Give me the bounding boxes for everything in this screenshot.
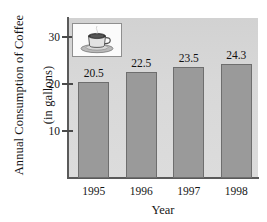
bar bbox=[78, 82, 109, 178]
bar bbox=[173, 67, 204, 178]
y-axis-tick-label: 10 bbox=[36, 125, 60, 137]
bar bbox=[126, 72, 157, 178]
y-axis-line bbox=[67, 17, 69, 179]
bar-value-label: 24.3 bbox=[226, 49, 246, 61]
bar bbox=[221, 64, 252, 178]
bar-value-label: 20.5 bbox=[84, 67, 104, 79]
x-axis-tick-label: 1995 bbox=[82, 185, 105, 197]
y-axis-title-line-1: Annual Consumption of Coffee bbox=[12, 15, 27, 176]
y-axis-tick bbox=[62, 83, 73, 85]
y-axis-tick bbox=[62, 130, 73, 132]
coffee-cup-illustration bbox=[72, 23, 122, 57]
coffee-cup-icon bbox=[73, 24, 121, 56]
x-axis-tick-label: 1997 bbox=[177, 185, 200, 197]
y-axis-tick-label: 20 bbox=[36, 78, 60, 90]
y-axis-tick-label: 30 bbox=[36, 31, 60, 43]
y-axis-title-line-2: (in gallons) bbox=[41, 66, 56, 124]
y-axis-title: Annual Consumption of Coffee (in gallons… bbox=[0, 0, 62, 190]
bar-value-label: 22.5 bbox=[131, 57, 151, 69]
x-axis-tick-label: 1998 bbox=[225, 185, 248, 197]
bar-chart-figure: Annual Consumption of Coffee (in gallons… bbox=[0, 0, 267, 222]
x-axis-title: Year bbox=[68, 203, 258, 218]
bar-value-label: 23.5 bbox=[179, 52, 199, 64]
x-axis-tick-label: 1996 bbox=[130, 185, 153, 197]
